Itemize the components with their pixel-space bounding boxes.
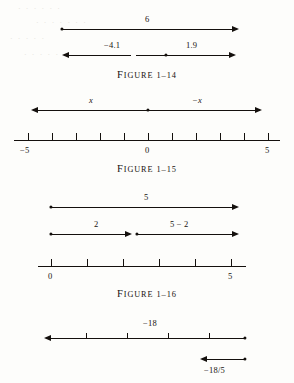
caption-number: 1–16 (157, 290, 177, 299)
arrowhead-right-icon (229, 52, 236, 58)
axis-tick (86, 333, 87, 339)
axis-tick (168, 333, 169, 339)
caption-number: 1–15 (157, 165, 177, 174)
arrow-line-minus-18 (51, 338, 245, 339)
axis-tick (127, 333, 128, 339)
arrowhead-left-icon (62, 52, 69, 58)
arrow-label-x: x (89, 96, 93, 105)
segment-endpoint-dot (243, 357, 246, 360)
axis-tick (172, 133, 173, 140)
ghost-text-line-3: · · · · · (10, 34, 46, 43)
arrow-label-5: 5 (144, 193, 148, 202)
axis-tick (52, 133, 53, 140)
axis-tick (87, 259, 88, 266)
arrow-label-minus-x: −x (192, 96, 202, 105)
figure-caption-1-14: FIGURE 1–14 (0, 69, 294, 80)
arrowhead-left-icon (31, 107, 38, 113)
axis-tick (268, 133, 269, 140)
axis-tick (209, 333, 210, 339)
arrow-line-1-9 (136, 55, 232, 56)
axis-tick (123, 259, 124, 266)
caption-word: FIGURE (117, 163, 153, 174)
axis-tick (100, 133, 101, 140)
figure-caption-1-15: FIGURE 1–15 (0, 163, 294, 174)
axis-tick (196, 133, 197, 140)
arrow-line-minus-4-1 (69, 55, 131, 56)
arrow-label-1-9: 1.9 (186, 41, 197, 50)
arrow-line-minus-18-over-5 (207, 359, 245, 360)
axis-tick (76, 133, 77, 140)
arrow-label-minus-18: −18 (143, 319, 157, 328)
axis-tick (124, 133, 125, 140)
axis-tick (28, 133, 29, 140)
axis-tick (51, 259, 52, 266)
caption-word: FIGURE (117, 69, 153, 80)
axis-label-min: −5 (20, 146, 29, 155)
caption-number: 1–14 (157, 71, 177, 80)
segment-endpoint-dot (243, 336, 246, 339)
arrowhead-right-icon (232, 204, 239, 210)
axis-label-max: 5 (265, 146, 269, 155)
arrow-label-minus-4-1: −4.1 (104, 41, 120, 50)
number-line-axis (14, 140, 280, 141)
figure-caption-1-16: FIGURE 1–16 (0, 288, 294, 299)
axis-tick (244, 133, 245, 140)
arrowhead-right-icon (232, 26, 239, 32)
arrow-line-5 (51, 207, 234, 208)
arrow-label-6: 6 (145, 15, 149, 24)
axis-origin-dot (146, 108, 149, 111)
arrowhead-right-icon (125, 231, 132, 237)
axis-tick (159, 259, 160, 266)
arrow-label-2: 2 (94, 220, 98, 229)
ghost-text-line-2: · · · · · · · (36, 18, 87, 27)
segment-origin-dot (164, 53, 167, 56)
axis-label-max: 5 (228, 272, 232, 281)
ghost-text-line-1: · · · · · · (18, 4, 62, 13)
caption-word: FIGURE (117, 288, 153, 299)
arrow-line-6 (62, 29, 234, 30)
arrow-label-5-minus-2: 5 − 2 (170, 220, 189, 229)
arrowhead-right-icon (232, 231, 239, 237)
arrowhead-right-icon (255, 107, 262, 113)
axis-label-min: 0 (48, 272, 52, 281)
arrow-line-5-minus-2 (137, 234, 234, 235)
axis-label-zero: 0 (145, 146, 149, 155)
axis-tick (220, 133, 221, 140)
arrow-label-minus-18-over-5: −18/5 (204, 366, 225, 375)
axis-tick (231, 259, 232, 266)
arrowhead-left-icon (44, 335, 51, 341)
axis-tick (195, 259, 196, 266)
arrow-line-2 (51, 234, 127, 235)
axis-tick (148, 133, 149, 140)
scanned-page: · · · · · · · · · · · · · · · · · · · · … (0, 0, 294, 383)
number-line-axis (38, 266, 246, 267)
arrowhead-left-icon (200, 356, 207, 362)
